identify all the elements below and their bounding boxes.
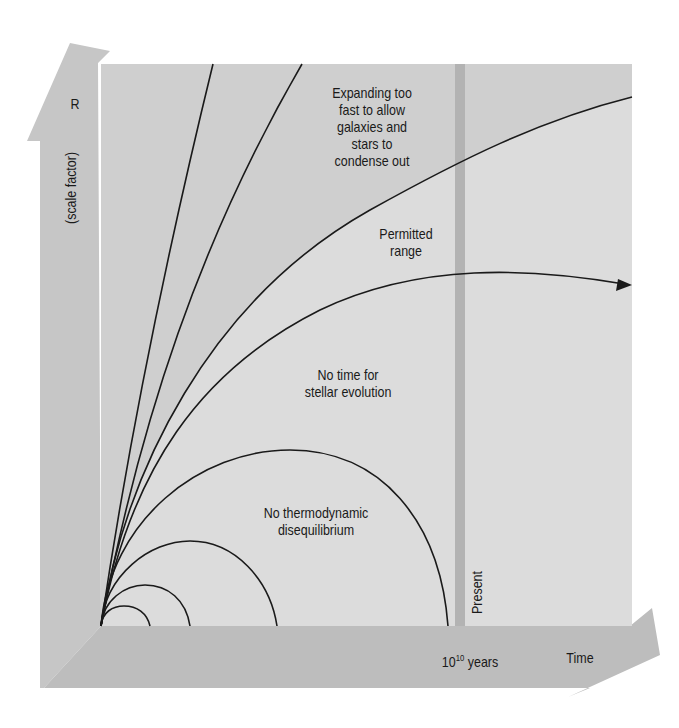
y-axis-arrow <box>27 43 110 688</box>
text-line: condense out <box>320 153 423 170</box>
text-line: No thermodynamic <box>256 505 376 522</box>
x-tick-label: 1010 years <box>431 650 508 671</box>
text-line: range <box>372 243 441 260</box>
region-no-time-label: No time for stellar evolution <box>292 367 404 401</box>
text-line: Expanding too <box>320 85 423 102</box>
y-axis-sublabel: (scale factor) <box>63 152 79 224</box>
x-tick-exponent: 10 <box>456 653 465 663</box>
region-no-thermo-label: No thermodynamic disequilibrium <box>256 505 376 539</box>
y-axis-label: R <box>67 96 82 113</box>
x-tick-unit: years <box>468 654 499 670</box>
text-line: No time for <box>292 367 404 384</box>
text-line: Permitted <box>372 226 441 243</box>
text-line: stars to <box>320 136 423 153</box>
text-line: stellar evolution <box>292 384 404 401</box>
x-axis-label: Time <box>559 650 602 667</box>
text-line: disequilibrium <box>256 522 376 539</box>
region-permitted-label: Permitted range <box>372 226 441 260</box>
text-line: galaxies and <box>320 119 423 136</box>
present-marker <box>455 64 465 626</box>
x-tick-base: 10 <box>442 654 456 670</box>
present-label: Present <box>469 571 485 614</box>
region-too-fast-label: Expanding too fast to allow galaxies and… <box>320 85 423 170</box>
text-line: fast to allow <box>320 102 423 119</box>
